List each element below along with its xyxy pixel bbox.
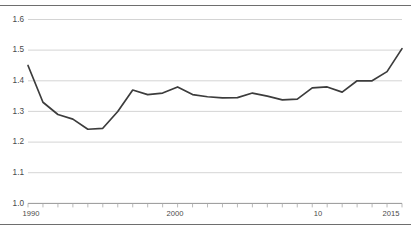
y-axis-tick-labels: 1.6 1.5 1.4 1.3 1.2 1.1 1.0: [13, 15, 25, 208]
gridlines: [28, 20, 402, 173]
ytick-label-1-4: 1.4: [13, 76, 25, 85]
ytick-label-1-5: 1.5: [13, 45, 25, 54]
x-axis: [28, 203, 402, 207]
x-axis-tick-marks: [28, 203, 402, 207]
ytick-label-1-6: 1.6: [13, 15, 25, 24]
data-series-line: [28, 49, 402, 130]
line-chart-plot: 1.6 1.5 1.4 1.3 1.2 1.1 1.0 1990 2000 10…: [0, 0, 411, 231]
x-axis-tick-labels: 1990 2000 10 2015: [23, 209, 400, 218]
ytick-label-1-0: 1.0: [13, 199, 25, 208]
xtick-label-2000: 2000: [167, 209, 184, 218]
xtick-label-2015: 2015: [383, 209, 400, 218]
chart-figure: 1.6 1.5 1.4 1.3 1.2 1.1 1.0 1990 2000 10…: [0, 0, 411, 231]
xtick-label-2010: 10: [314, 209, 322, 218]
xtick-label-1990: 1990: [23, 209, 40, 218]
ytick-label-1-3: 1.3: [13, 107, 25, 116]
ytick-label-1-2: 1.2: [13, 137, 25, 146]
ytick-label-1-1: 1.1: [13, 168, 25, 177]
